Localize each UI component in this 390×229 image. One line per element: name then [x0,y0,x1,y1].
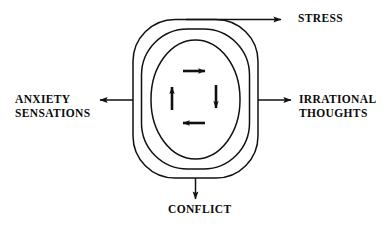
inner-circulation-arrows [172,71,216,123]
label-anxiety-sensations: ANXIETY SENSATIONS [15,93,91,120]
nested-rings [133,20,258,179]
outward-connectors [100,20,291,200]
label-irrational-line1: IRRATIONAL [299,93,376,107]
label-stress-text: STRESS [298,12,343,26]
label-anxiety-line1: ANXIETY [15,93,91,107]
label-irrational-line2: THOUGHTS [299,107,376,121]
label-irrational-thoughts: IRRATIONAL THOUGHTS [299,93,376,120]
label-anxiety-line2: SENSATIONS [15,107,91,121]
label-conflict-text: CONFLICT [168,203,232,217]
middle-ring [142,29,250,169]
label-conflict: CONFLICT [168,203,232,217]
inner-ring [151,40,240,159]
label-stress: STRESS [298,12,343,26]
anxiety-cycle-diagram: STRESS ANXIETY SENSATIONS IRRATIONAL THO… [0,0,390,229]
